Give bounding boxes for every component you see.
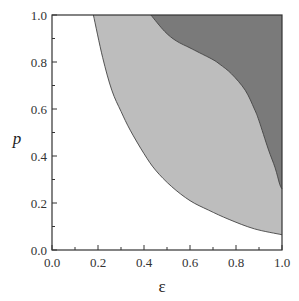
y-tick-label: 0.0: [31, 243, 47, 258]
y-axis-ticks: 0.00.20.40.60.81.0: [31, 8, 57, 258]
x-tick-label: 0.4: [136, 255, 153, 270]
y-tick-label: 0.6: [31, 102, 48, 117]
x-axis-ticks: 0.00.20.40.60.81.0: [44, 245, 290, 270]
x-tick-label: 0.8: [228, 255, 244, 270]
y-tick-label: 1.0: [31, 8, 47, 23]
x-tick-label: 0.2: [90, 255, 106, 270]
y-tick-label: 0.4: [31, 149, 48, 164]
y-axis-label: p: [12, 129, 22, 148]
plot-regions: [93, 15, 282, 235]
y-tick-label: 0.8: [31, 55, 47, 70]
y-tick-label: 0.2: [31, 196, 47, 211]
x-tick-label: 0.6: [182, 255, 199, 270]
x-axis-label: ε: [158, 277, 165, 296]
phase-diagram-chart: 0.00.20.40.60.81.0 0.00.20.40.60.81.0 ε …: [0, 0, 299, 301]
x-tick-label: 1.0: [274, 255, 290, 270]
